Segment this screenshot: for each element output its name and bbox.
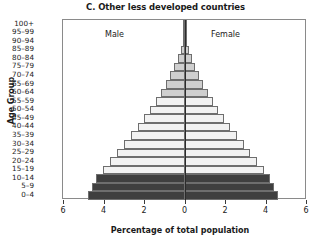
bar-male xyxy=(150,106,184,115)
x-tick-mark xyxy=(63,200,64,204)
y-tick-label: 15–19 xyxy=(0,165,34,174)
bar-male xyxy=(174,63,184,72)
bar-female xyxy=(185,114,224,123)
y-tick-label: 45–49 xyxy=(0,114,34,123)
x-tick-label: 6 xyxy=(53,206,73,215)
bar-female xyxy=(185,97,213,106)
x-tick-label: 2 xyxy=(134,206,154,215)
bar-female xyxy=(185,157,258,166)
y-tick-label: 55–59 xyxy=(0,97,34,106)
bar-male xyxy=(92,183,184,192)
y-tick-label: 0–4 xyxy=(0,191,34,200)
y-tick-label: 85–89 xyxy=(0,45,34,54)
bar-male xyxy=(124,140,185,149)
bar-male xyxy=(88,191,184,200)
bar-male xyxy=(170,71,184,80)
bar-female xyxy=(185,191,278,200)
y-tick-label: 50–54 xyxy=(0,105,34,114)
bar-female xyxy=(185,123,231,132)
x-tick-mark xyxy=(185,200,186,204)
bar-female xyxy=(185,183,275,192)
y-tick-label: 10–14 xyxy=(0,174,34,183)
center-axis-line xyxy=(185,20,186,200)
bar-male xyxy=(96,174,184,183)
bar-female xyxy=(185,149,251,158)
y-tick-label: 40–44 xyxy=(0,122,34,131)
bar-female xyxy=(185,54,192,63)
y-tick-label: 70–74 xyxy=(0,71,34,80)
x-tick-mark xyxy=(266,200,267,204)
bar-female xyxy=(185,174,270,183)
y-tick-label: 20–24 xyxy=(0,157,34,166)
bar-male xyxy=(117,149,185,158)
bar-female xyxy=(185,63,196,72)
y-tick-label: 100+ xyxy=(0,20,34,29)
bar-male xyxy=(144,114,185,123)
y-tick-label: 95–99 xyxy=(0,28,34,37)
y-tick-label: 80–84 xyxy=(0,54,34,63)
x-tick-mark xyxy=(306,200,307,204)
panel-label-female: Female xyxy=(211,30,240,39)
bar-male xyxy=(138,123,185,132)
x-tick-label: 6 xyxy=(296,206,316,215)
y-tick-label: 35–39 xyxy=(0,131,34,140)
panel-label-male: Male xyxy=(105,30,124,39)
bar-male xyxy=(131,131,185,140)
bar-female xyxy=(185,71,200,80)
bar-female xyxy=(185,166,265,175)
population-pyramid-chart: C. Other less developed countries Age Gr… xyxy=(0,0,331,246)
bar-male xyxy=(161,89,184,98)
x-tick-label: 4 xyxy=(94,206,114,215)
x-tick-label: 0 xyxy=(175,206,195,215)
x-tick-label: 4 xyxy=(256,206,276,215)
plot-area: Male Female 0–45–910–1415–1920–2425–2930… xyxy=(62,19,306,199)
y-tick-label: 25–29 xyxy=(0,148,34,157)
bar-female xyxy=(185,140,244,149)
y-tick-label: 60–64 xyxy=(0,88,34,97)
x-tick-mark xyxy=(144,200,145,204)
y-tick-label: 75–79 xyxy=(0,62,34,71)
y-tick-label: 65–69 xyxy=(0,80,34,89)
x-tick-mark xyxy=(104,200,105,204)
bar-female xyxy=(185,131,237,140)
bar-female xyxy=(185,80,204,89)
x-axis-title: Percentage of total population xyxy=(40,226,320,235)
y-tick-label: 30–34 xyxy=(0,140,34,149)
chart-title: C. Other less developed countries xyxy=(0,2,331,12)
x-tick-mark xyxy=(225,200,226,204)
bar-male xyxy=(103,166,185,175)
y-tick-label: 5–9 xyxy=(0,182,34,191)
bar-male xyxy=(166,80,185,89)
x-tick-label: 2 xyxy=(215,206,235,215)
bar-female xyxy=(185,106,219,115)
bar-male xyxy=(156,97,185,106)
y-tick-label: 90–94 xyxy=(0,37,34,46)
bar-male xyxy=(110,157,185,166)
bar-female xyxy=(185,89,208,98)
